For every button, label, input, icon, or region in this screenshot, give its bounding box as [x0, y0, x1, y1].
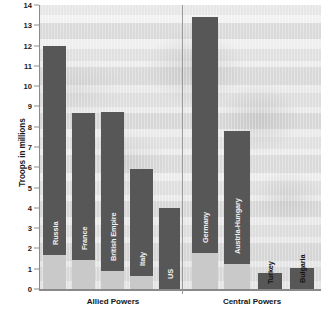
y-axis-tick — [34, 187, 39, 188]
bar-label: British Empire — [108, 213, 117, 261]
y-axis-tick-label: 10 — [16, 82, 32, 91]
y-axis-tick — [34, 268, 39, 269]
y-axis-title: Troops in millions — [18, 98, 27, 208]
y-axis-tick — [34, 248, 39, 249]
y-axis-tick — [34, 207, 39, 208]
bar-segment-total — [101, 112, 124, 290]
group-label-central-powers: Central Powers — [223, 297, 281, 306]
bar: Turkey — [258, 273, 282, 289]
y-axis-tick — [34, 25, 39, 26]
y-axis-tick-label: 1 — [16, 264, 32, 273]
bar-label: Germany — [201, 212, 210, 243]
bar-segment-base — [72, 260, 95, 289]
bar-segment-total — [192, 17, 218, 289]
bar-segment-total — [43, 46, 66, 289]
group-separator — [182, 5, 183, 289]
bar-segment-base — [43, 255, 66, 289]
bar-label: Bulgaria — [298, 255, 307, 283]
bar-segment-base — [101, 271, 124, 289]
plot-area: RussiaFranceBritish EmpireItalyUSGermany… — [40, 5, 321, 289]
bar: US — [159, 208, 180, 289]
bar-label: Italy — [137, 252, 146, 266]
group-label-allied-powers: Allied Powers — [87, 297, 139, 306]
y-axis-tick-label: 3 — [16, 224, 32, 233]
bar: Bulgaria — [290, 268, 314, 289]
y-axis-tick — [34, 45, 39, 46]
bar-segment-base — [224, 264, 250, 289]
y-axis-tick — [34, 86, 39, 87]
bar-label: Austria-Hungary — [233, 198, 242, 254]
y-axis-tick — [34, 147, 39, 148]
bar: British Empire — [101, 112, 124, 290]
y-axis-tick — [34, 289, 39, 290]
bar: France — [72, 113, 95, 289]
bar-segment-total — [130, 169, 153, 289]
y-axis-tick — [34, 5, 39, 6]
bar-label: Turkey — [266, 261, 275, 284]
y-axis-tick-label: 14 — [16, 1, 32, 10]
y-axis-tick-label: 11 — [16, 61, 32, 70]
y-axis-tick — [34, 126, 39, 127]
y-axis-tick-label: 12 — [16, 41, 32, 50]
bar-label: US — [165, 269, 174, 279]
bar-label: France — [79, 226, 88, 249]
x-axis-mid-tick — [182, 290, 183, 294]
bar: Italy — [130, 169, 153, 289]
y-axis-tick — [34, 65, 39, 66]
y-axis-tick — [34, 228, 39, 229]
bar-label: Russia — [50, 221, 59, 244]
bar: Russia — [43, 46, 66, 289]
y-axis-tick-label: 0 — [16, 285, 32, 294]
bar: Austria-Hungary — [224, 131, 250, 289]
bar-segment-base — [192, 253, 218, 290]
bar-chart: RussiaFranceBritish EmpireItalyUSGermany… — [0, 0, 323, 309]
y-axis-tick-label: 13 — [16, 21, 32, 30]
bar: Germany — [192, 17, 218, 289]
bar-segment-base — [130, 276, 153, 289]
y-axis-tick-label: 2 — [16, 244, 32, 253]
x-axis-line — [39, 289, 321, 291]
y-axis-tick — [34, 106, 39, 107]
y-axis-tick — [34, 167, 39, 168]
